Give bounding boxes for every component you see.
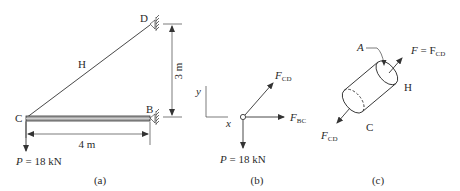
pin-support-d-icon — [150, 15, 159, 31]
caption-c: (c) — [372, 174, 385, 187]
cable-segment-cylinder — [338, 57, 402, 117]
point-label-b: B — [146, 103, 153, 115]
label-c: C — [366, 121, 373, 133]
axis-label-y: y — [195, 85, 201, 97]
figure-b: y x FCD FBC P = 18 kN (b) — [195, 69, 306, 187]
figure-a: 3 m 4 m P = 18 kN C B D H (a) — [15, 12, 184, 187]
label-a: A — [356, 41, 364, 53]
figure-canvas: 3 m 4 m P = 18 kN C B D H (a) y x FCD FB… — [0, 0, 460, 191]
caption-a: (a) — [94, 174, 107, 187]
load-label-a: P = 18 kN — [15, 155, 62, 167]
caption-b: (b) — [251, 174, 264, 187]
area-pointer — [366, 48, 384, 64]
point-label-c: C — [15, 112, 22, 124]
point-label-h: H — [78, 58, 86, 70]
force-arrow-bottom — [337, 108, 350, 123]
dim-horizontal-label: 4 m — [79, 138, 96, 150]
load-label-b: P = 18 kN — [219, 153, 266, 165]
label-h: H — [404, 81, 412, 93]
point-label-d: D — [140, 12, 148, 24]
force-label-top: F = FCD — [410, 44, 445, 58]
force-label-fcd: FCD — [274, 69, 291, 83]
cable-cd — [26, 25, 150, 118]
axis-label-x: x — [225, 117, 231, 129]
dim-vertical-label: 3 m — [172, 62, 184, 79]
force-arrow-fcd — [245, 83, 273, 115]
force-label-bottom: FCD — [320, 129, 337, 143]
joint-c-icon — [240, 114, 245, 119]
figure-c: A F = FCD H C FCD (c) — [320, 41, 445, 187]
force-label-fbc: FBC — [289, 111, 306, 125]
